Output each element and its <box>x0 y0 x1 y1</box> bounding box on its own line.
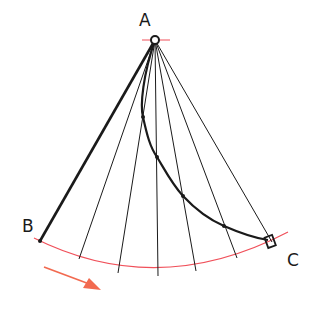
radial-lines <box>79 40 272 276</box>
bob-box <box>265 235 276 248</box>
label-c: C <box>287 250 299 270</box>
point-b <box>38 239 42 243</box>
direction-arrow <box>44 267 101 290</box>
label-b: B <box>22 216 34 236</box>
pendulum-diagram: A B C <box>0 0 316 312</box>
curve-marks <box>141 115 226 228</box>
pivot-circle <box>151 36 159 44</box>
line-ab <box>40 40 155 241</box>
label-a: A <box>139 10 151 30</box>
swing-arc <box>34 232 288 268</box>
